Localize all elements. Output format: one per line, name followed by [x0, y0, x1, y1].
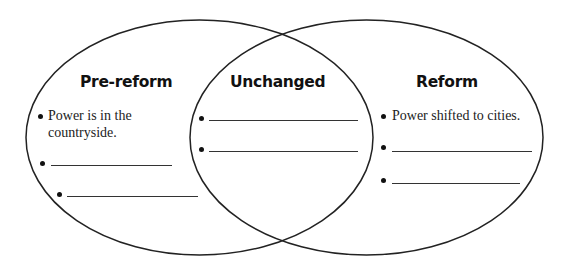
bullet-icon — [40, 161, 45, 166]
bullet-icon — [38, 114, 43, 119]
reform-blank-2[interactable] — [392, 151, 532, 152]
bullet-icon — [199, 116, 204, 121]
pre-reform-heading: Pre-reform — [80, 73, 172, 91]
unchanged-blank-2[interactable] — [209, 151, 358, 152]
reform-item-1: Power shifted to cities. — [392, 107, 542, 124]
pre-reform-item-1: Power is in the countryside. — [48, 107, 168, 141]
reform-ellipse — [190, 20, 543, 255]
reform-blank-3[interactable] — [392, 183, 520, 184]
bullet-icon — [199, 147, 204, 152]
bullet-icon — [381, 145, 386, 150]
reform-heading: Reform — [416, 73, 478, 91]
bullet-icon — [381, 114, 386, 119]
bullet-icon — [57, 192, 62, 197]
unchanged-heading: Unchanged — [230, 73, 325, 91]
unchanged-blank-1[interactable] — [209, 120, 358, 121]
pre-reform-blank-3[interactable] — [67, 196, 198, 197]
pre-reform-blank-2[interactable] — [51, 165, 172, 166]
bullet-icon — [381, 178, 386, 183]
